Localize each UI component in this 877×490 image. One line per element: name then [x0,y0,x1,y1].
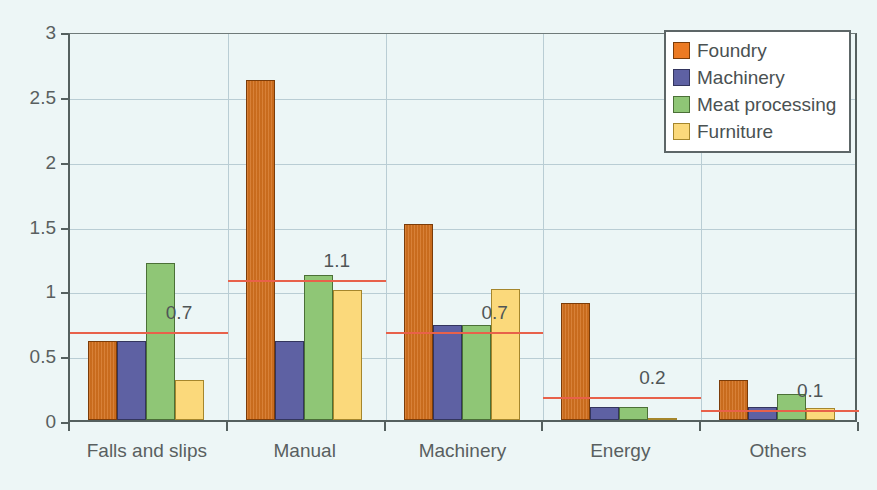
bar-group [386,34,544,420]
bar [404,224,433,420]
x-axis-tick-mark [68,422,70,431]
bar [175,380,204,420]
legend-swatch-machinery [673,69,690,86]
x-axis-tick-mark [384,422,386,431]
y-axis-tick-label: 2.5 [0,87,56,109]
y-axis-tick-mark [61,33,68,35]
bar [146,263,175,420]
reference-line [543,397,701,399]
y-axis-tick-label: 2 [0,152,56,174]
y-axis-tick-mark [61,357,68,359]
reference-line [386,332,544,334]
legend-label: Furniture [697,122,773,141]
legend-label: Machinery [697,68,785,87]
x-axis-tick-mark [541,422,543,431]
legend-swatch-furniture [673,123,690,140]
bar [88,341,117,420]
bar [304,275,333,420]
y-axis-tick-mark [61,98,68,100]
x-axis-tick-label: Energy [541,440,699,462]
reference-line [70,332,228,334]
y-axis-tick-mark [61,228,68,230]
legend-swatch-foundry [673,42,690,59]
bar [275,341,304,420]
bar [619,407,648,420]
x-axis-tick-label: Machinery [384,440,542,462]
bar-chart: 0.71.10.70.20.1 00.511.522.53 Falls and … [0,0,877,490]
x-axis-tick-mark [226,422,228,431]
bar [462,325,491,420]
legend-item[interactable]: Foundry [673,37,842,64]
bar [748,407,777,420]
legend-item[interactable]: Meat processing [673,91,842,118]
x-axis-tick-label: Others [699,440,857,462]
reference-line-label: 0.1 [797,380,823,402]
legend-item[interactable]: Machinery [673,64,842,91]
reference-line-label: 0.7 [166,302,192,324]
y-axis-tick-mark [61,292,68,294]
bar [648,418,677,420]
y-axis-tick-label: 1 [0,281,56,303]
legend-label: Foundry [697,41,767,60]
bar [561,303,590,420]
x-axis-tick-mark [699,422,701,431]
reference-line-label: 1.1 [324,250,350,272]
bar-group [228,34,386,420]
bar [246,80,275,420]
x-axis-tick-label: Falls and slips [68,440,226,462]
bar [333,290,362,420]
y-axis-tick-mark [61,163,68,165]
bar [433,325,462,420]
y-axis-tick-label: 0 [0,411,56,433]
bar [719,380,748,420]
legend-label: Meat processing [697,95,836,114]
reference-line-label: 0.7 [481,302,507,324]
bar-group [70,34,228,420]
bar [590,407,619,420]
reference-line [228,280,386,282]
y-axis-tick-mark [61,422,68,424]
y-axis-tick-label: 0.5 [0,346,56,368]
legend-item[interactable]: Furniture [673,118,842,145]
legend: Foundry Machinery Meat processing Furnit… [664,30,851,153]
x-axis-tick-label: Manual [226,440,384,462]
x-axis-tick-mark [857,422,859,431]
bar [117,341,146,420]
reference-line [701,410,859,412]
y-axis-tick-label: 3 [0,22,56,44]
y-axis-tick-label: 1.5 [0,217,56,239]
legend-swatch-meat-processing [673,96,690,113]
reference-line-label: 0.2 [639,367,665,389]
